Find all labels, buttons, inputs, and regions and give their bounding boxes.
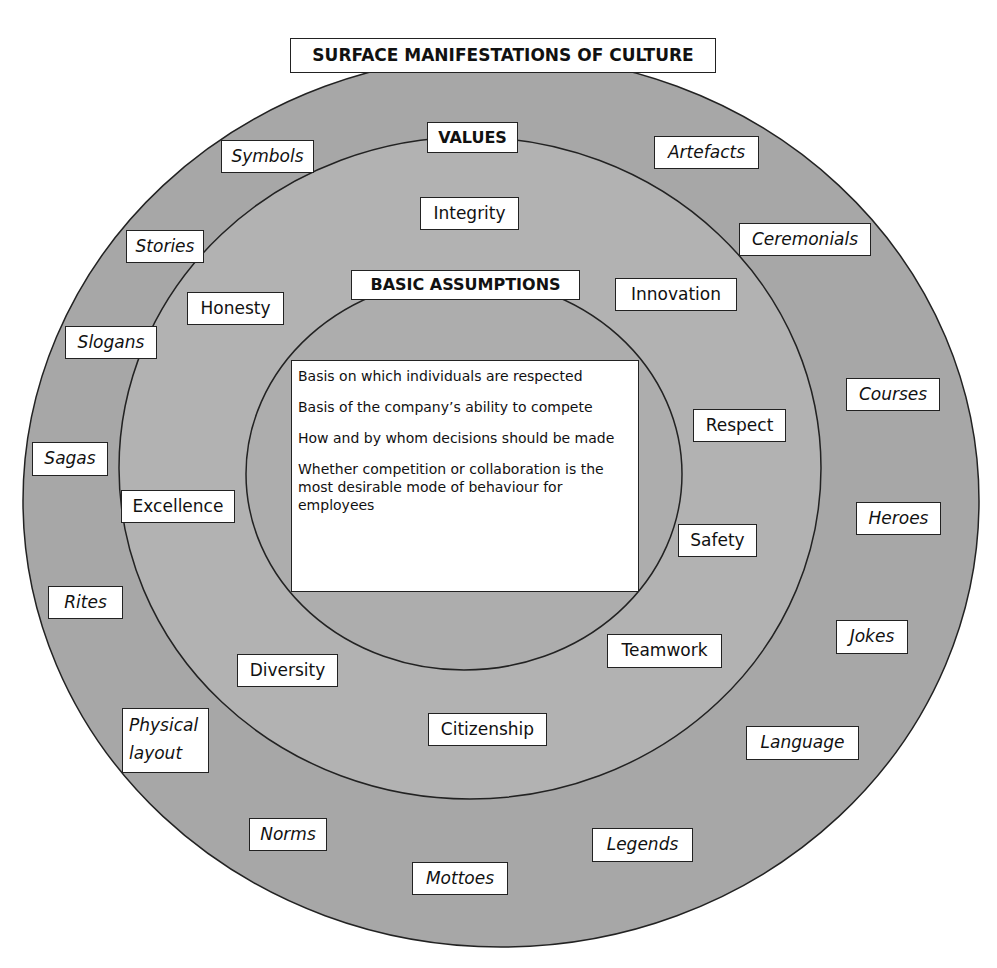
value-integrity: Integrity bbox=[420, 197, 519, 230]
assumption-item: How and by whom decisions should be made bbox=[298, 429, 632, 447]
surface-legends: Legends bbox=[592, 828, 693, 862]
surface-symbols: Symbols bbox=[221, 140, 314, 173]
surface-norms: Norms bbox=[249, 818, 327, 851]
heading-basic-assumptions: BASIC ASSUMPTIONS bbox=[351, 270, 580, 300]
surface-heroes: Heroes bbox=[856, 502, 941, 535]
value-safety: Safety bbox=[678, 524, 757, 557]
surface-sagas: Sagas bbox=[32, 442, 108, 476]
value-citizenship: Citizenship bbox=[428, 713, 547, 746]
value-innovation: Innovation bbox=[615, 278, 737, 311]
surface-physical-layout: Physical layout bbox=[122, 708, 209, 773]
surface-ceremonials: Ceremonials bbox=[739, 223, 871, 256]
surface-mottoes: Mottoes bbox=[412, 862, 508, 895]
surface-slogans: Slogans bbox=[65, 326, 157, 359]
assumption-item: Basis of the company’s ability to compet… bbox=[298, 398, 632, 416]
value-excellence: Excellence bbox=[121, 490, 235, 523]
surface-artefacts: Artefacts bbox=[654, 136, 759, 169]
surface-courses: Courses bbox=[846, 378, 940, 411]
surface-language: Language bbox=[746, 726, 859, 760]
title-surface-manifestations: SURFACE MANIFESTATIONS OF CULTURE bbox=[290, 38, 716, 73]
basic-assumptions-box: Basis on which individuals are respected… bbox=[291, 360, 639, 592]
assumption-item: Whether competition or collaboration is … bbox=[298, 460, 632, 514]
surface-jokes: Jokes bbox=[836, 620, 908, 654]
assumption-item: Basis on which individuals are respected bbox=[298, 367, 632, 385]
surface-stories: Stories bbox=[126, 230, 204, 263]
value-respect: Respect bbox=[693, 409, 786, 442]
value-honesty: Honesty bbox=[187, 292, 284, 325]
value-diversity: Diversity bbox=[237, 654, 338, 687]
surface-rites: Rites bbox=[48, 586, 123, 619]
heading-values: VALUES bbox=[427, 122, 518, 153]
value-teamwork: Teamwork bbox=[607, 634, 722, 668]
